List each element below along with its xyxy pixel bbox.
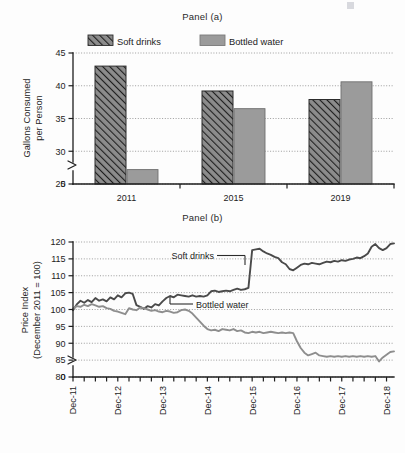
panel-a: Panel (a) 25303540450201120152019 Soft d…: [0, 0, 405, 215]
svg-text:2011: 2011: [117, 193, 136, 203]
svg-text:45: 45: [55, 48, 65, 58]
svg-text:0: 0: [60, 179, 65, 189]
panel-b-y-axis-title: Price Index(December 2011 = 100): [20, 261, 42, 359]
svg-text:35: 35: [55, 114, 65, 124]
figure-canvas: Panel (a) 25303540450201120152019 Soft d…: [0, 0, 405, 453]
svg-text:Dec-11: Dec-11: [68, 386, 78, 414]
panel-a-chart: 25303540450201120152019 Soft drinksBottl…: [0, 0, 405, 215]
panel-b-chart: 808590951001051101151200Dec-11Dec-12Dec-…: [0, 207, 405, 453]
panel-a-legend: Soft drinksBottled water: [88, 35, 283, 47]
svg-text:90: 90: [55, 339, 65, 349]
svg-text:Dec-16: Dec-16: [292, 386, 302, 415]
panel-b: Panel (b) 808590951001051101151200Dec-11…: [0, 207, 405, 453]
svg-text:85: 85: [55, 355, 65, 365]
svg-text:115: 115: [51, 254, 65, 264]
svg-text:2019: 2019: [330, 193, 350, 203]
svg-text:105: 105: [50, 288, 65, 298]
svg-text:Dec-17: Dec-17: [337, 386, 347, 415]
svg-text:120: 120: [50, 237, 65, 247]
svg-text:Dec-13: Dec-13: [158, 386, 168, 415]
panel-a-bars: [95, 66, 372, 184]
svg-text:0: 0: [60, 372, 65, 382]
svg-text:95: 95: [55, 322, 65, 332]
svg-text:2015: 2015: [223, 193, 243, 203]
svg-text:100: 100: [50, 305, 65, 315]
svg-text:110: 110: [51, 271, 65, 281]
svg-text:Dec-15: Dec-15: [248, 386, 258, 415]
svg-text:30: 30: [55, 147, 65, 157]
svg-text:Dec-18: Dec-18: [382, 386, 392, 415]
svg-text:Dec-14: Dec-14: [203, 386, 213, 415]
svg-text:Bottled water: Bottled water: [229, 37, 283, 47]
svg-text:40: 40: [55, 81, 65, 91]
svg-text:Soft drinks: Soft drinks: [171, 251, 214, 261]
svg-text:Bottled water: Bottled water: [196, 300, 249, 310]
panel-b-annotations: Soft drinksBottled water: [170, 251, 249, 310]
panel-a-y-axis-title: Gallons Consumedper Person: [22, 78, 44, 157]
svg-text:Soft drinks: Soft drinks: [117, 37, 161, 47]
svg-text:Dec-12: Dec-12: [113, 386, 123, 415]
